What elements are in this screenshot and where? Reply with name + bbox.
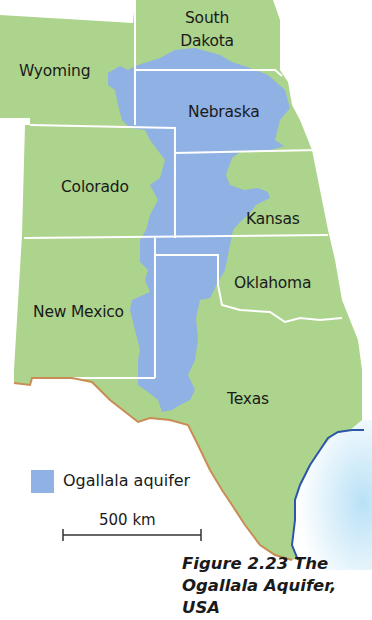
label-nebraska: Nebraska — [188, 103, 260, 122]
scale-bar-label: 500 km — [99, 511, 156, 529]
label-texas: Texas — [227, 390, 269, 409]
figure-caption: Figure 2.23 The Ogallala Aquifer, USA — [182, 553, 372, 619]
label-south-dakota: South Dakota — [172, 9, 242, 51]
label-wyoming: Wyoming — [19, 62, 90, 81]
legend-aquifer-swatch — [31, 470, 54, 493]
caption-line2: Ogallala Aquifer, — [182, 575, 372, 597]
label-south-dakota-line2: Dakota — [172, 32, 242, 51]
label-colorado: Colorado — [61, 178, 129, 197]
label-oklahoma: Oklahoma — [234, 274, 311, 293]
scale-bar — [63, 529, 201, 541]
legend-aquifer-label: Ogallala aquifer — [63, 471, 190, 490]
caption-line1: Figure 2.23 The — [182, 553, 372, 575]
label-south-dakota-line1: South — [172, 9, 242, 28]
caption-line3: USA — [182, 597, 372, 619]
label-kansas: Kansas — [246, 210, 300, 229]
label-new-mexico: New Mexico — [33, 303, 124, 322]
